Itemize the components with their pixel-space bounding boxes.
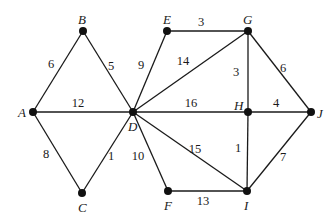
edge-weight-d-i: 15	[189, 142, 202, 156]
edge-weight-g-j: 6	[280, 61, 286, 75]
node-label-g: G	[243, 12, 253, 27]
node-label-b: B	[78, 12, 86, 27]
node-label-c: C	[78, 200, 87, 215]
node-label-d: D	[127, 119, 138, 134]
edge-weight-h-j: 4	[273, 96, 280, 110]
node-a	[29, 108, 37, 116]
edge-weight-g-h: 3	[233, 65, 239, 79]
node-d	[129, 108, 137, 116]
node-e	[163, 27, 171, 35]
edges-layer	[33, 31, 311, 193]
node-f	[164, 187, 172, 195]
node-label-j: J	[317, 106, 324, 121]
edge-weight-j-i: 7	[280, 150, 286, 164]
node-label-h: H	[233, 98, 244, 113]
edge-weight-b-d: 5	[108, 59, 114, 73]
edge-weight-f-i: 13	[197, 194, 210, 208]
edge-h-i	[247, 112, 248, 191]
node-label-f: F	[163, 198, 173, 213]
edge-weight-h-i: 1	[235, 141, 241, 155]
node-label-a: A	[17, 105, 26, 120]
node-b	[79, 27, 87, 35]
edge-weight-a-d: 12	[72, 96, 85, 110]
edge-weight-a-b: 6	[48, 57, 54, 71]
edge-weight-d-f: 10	[132, 149, 145, 163]
edge-a-c	[33, 112, 82, 193]
node-i	[243, 187, 251, 195]
node-h	[244, 108, 252, 116]
edge-weight-e-g: 3	[198, 15, 204, 29]
node-g	[244, 27, 252, 35]
node-labels-layer: ABCDEGHJFI	[17, 12, 324, 215]
edge-weight-d-e: 9	[138, 58, 144, 72]
edge-weight-d-h: 16	[185, 96, 198, 110]
node-label-i: I	[243, 198, 249, 213]
edge-weight-c-d: 1	[108, 149, 114, 163]
node-j	[307, 108, 315, 116]
edge-weight-d-g: 14	[177, 54, 190, 68]
node-label-e: E	[162, 12, 171, 27]
edge-weight-a-c: 8	[43, 147, 49, 161]
node-c	[78, 189, 86, 197]
weighted-graph-diagram: 65128193143616410151713 ABCDEGHJFI	[0, 0, 336, 222]
